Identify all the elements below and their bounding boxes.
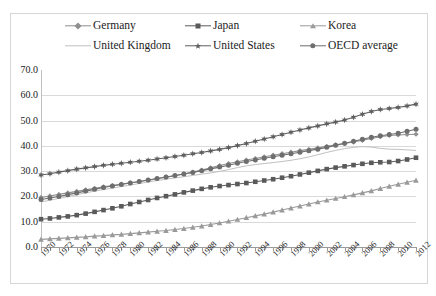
chart-figure: GermanyJapanKoreaUnited KingdomUnited St… <box>0 0 436 296</box>
legend-item-germany[interactable]: Germany <box>65 20 136 32</box>
chart-legend: GermanyJapanKoreaUnited KingdomUnited St… <box>10 14 428 58</box>
legend-label: Germany <box>93 20 136 32</box>
y-tick-label: 60.0 <box>0 90 38 100</box>
y-axis-line <box>41 70 42 248</box>
legend-item-japan[interactable]: Japan <box>185 20 239 32</box>
legend-row: GermanyJapanKorea <box>10 16 428 36</box>
legend-item-oecd-average[interactable]: OECD average <box>300 40 398 52</box>
gridline <box>41 222 416 223</box>
gridline <box>41 171 416 172</box>
gridline <box>41 146 416 147</box>
legend-label: Japan <box>213 20 239 32</box>
circle-marker-icon <box>300 40 326 52</box>
square-marker-icon <box>185 20 211 32</box>
star-marker-icon <box>185 40 211 52</box>
y-tick-label: 50.0 <box>0 116 38 126</box>
legend-row: United KingdomUnited StatesOECD average <box>10 36 428 56</box>
y-tick-label: 0.0 <box>0 242 38 252</box>
legend-label: OECD average <box>328 40 398 52</box>
legend-item-united-states[interactable]: United States <box>185 40 275 52</box>
y-tick-label: 10.0 <box>0 217 38 227</box>
gridline <box>41 95 416 96</box>
y-tick-label: 20.0 <box>0 191 38 201</box>
gridline <box>41 121 416 122</box>
legend-item-korea[interactable]: Korea <box>300 20 356 32</box>
y-tick-label: 70.0 <box>0 65 38 75</box>
legend-label: United States <box>213 40 275 52</box>
diamond-marker-icon <box>65 20 91 32</box>
legend-label: United Kingdom <box>93 40 171 52</box>
legend-item-united-kingdom[interactable]: United Kingdom <box>65 40 171 52</box>
y-axis-tick-labels: 0.010.020.030.040.050.060.070.0 <box>0 0 38 296</box>
y-tick-label: 30.0 <box>0 166 38 176</box>
none-marker-icon <box>65 40 91 52</box>
plot-area <box>41 70 416 247</box>
legend-label: Korea <box>328 20 356 32</box>
y-tick-label: 40.0 <box>0 141 38 151</box>
gridline <box>41 196 416 197</box>
triangle-marker-icon <box>300 20 326 32</box>
